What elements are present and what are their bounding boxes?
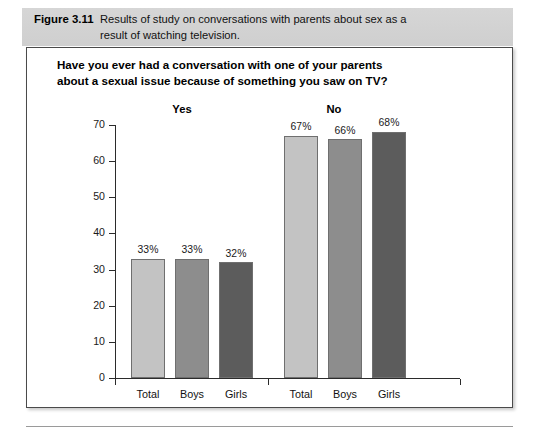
y-tick-label-10: 10 [75, 335, 105, 347]
y-axis-line [115, 125, 116, 379]
figure-panel: Have you ever had a conversation with on… [26, 47, 513, 408]
bar-value-no-boys: 66% [325, 125, 365, 136]
category-label-no-girls: Girls [367, 388, 411, 400]
category-label-no-total: Total [279, 388, 323, 400]
y-tick-mark-10 [109, 342, 115, 343]
figure-caption-line-2: result of watching television. [34, 28, 503, 44]
y-tick-label-30: 30 [75, 263, 105, 275]
bar-no-total [284, 136, 318, 378]
y-tick-label-60: 60 [75, 154, 105, 166]
x-tick-group-divider [268, 379, 269, 385]
y-tick-mark-30 [109, 270, 115, 271]
bar-value-yes-girls: 32% [216, 248, 256, 259]
y-tick-mark-60 [109, 161, 115, 162]
bar-chart-plot-area: Yes No 0 10 20 30 40 50 60 70 33% Total … [27, 48, 514, 409]
category-label-yes-girls: Girls [214, 388, 258, 400]
page-bottom-rule [26, 426, 513, 427]
bar-value-no-total: 67% [281, 121, 321, 132]
bar-yes-girls [219, 262, 253, 378]
group-heading-no: No [289, 103, 379, 115]
y-tick-label-70: 70 [75, 118, 105, 130]
group-heading-yes: Yes [137, 103, 227, 115]
y-tick-mark-70 [109, 125, 115, 126]
y-tick-mark-40 [109, 233, 115, 234]
bar-no-boys [328, 139, 362, 378]
figure-caption-band: Figure 3.11Results of study on conversat… [22, 8, 513, 46]
figure-caption-line-1: Figure 3.11Results of study on conversat… [34, 12, 503, 28]
x-axis-line [115, 378, 460, 379]
category-label-yes-total: Total [126, 388, 170, 400]
y-tick-mark-20 [109, 306, 115, 307]
category-label-no-boys: Boys [323, 388, 367, 400]
figure-caption-text-2: result of watching television. [34, 28, 503, 44]
figure-caption-text-1: Results of study on conversations with p… [100, 13, 407, 25]
x-tick-start [115, 379, 116, 385]
bar-value-yes-boys: 33% [172, 244, 212, 255]
y-tick-mark-50 [109, 197, 115, 198]
y-tick-label-50: 50 [75, 190, 105, 202]
y-tick-label-0: 0 [75, 371, 105, 383]
bar-value-yes-total: 33% [128, 244, 168, 255]
bar-no-girls [372, 132, 406, 378]
bar-value-no-girls: 68% [369, 117, 409, 128]
bar-yes-total [131, 259, 165, 378]
y-tick-label-40: 40 [75, 226, 105, 238]
y-tick-label-20: 20 [75, 299, 105, 311]
x-tick-end [460, 379, 461, 385]
bar-yes-boys [175, 259, 209, 378]
figure-number-label: Figure 3.11 [34, 12, 100, 28]
category-label-yes-boys: Boys [170, 388, 214, 400]
